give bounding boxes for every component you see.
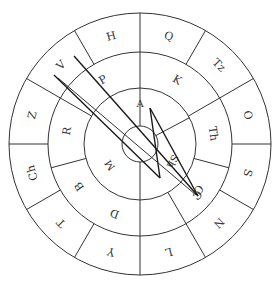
inner-sector-label: M: [102, 158, 117, 173]
outer-divider: [220, 190, 254, 210]
outer-divider: [186, 224, 206, 258]
outer-sector-label: L: [163, 244, 174, 259]
middle-divider: [168, 192, 186, 223]
outer-sector-label: Q: [163, 29, 175, 44]
outer-sector-label: V: [53, 57, 69, 73]
middle-divider: [188, 98, 219, 116]
middle-sector-label: B: [72, 179, 87, 193]
middle-sector-label: Th: [206, 126, 221, 142]
middle-sector-label: K: [170, 72, 184, 88]
middle-sector-label: R: [60, 125, 74, 136]
inner-sector-label: A: [135, 98, 144, 109]
outer-sector-label: H: [105, 29, 118, 44]
middle-sector-label: D: [108, 206, 121, 221]
middle-divider: [51, 158, 86, 167]
outer-sector-label: T: [54, 215, 69, 230]
outer-divider: [186, 31, 206, 65]
outer-divider: [27, 79, 61, 99]
outer-sector-label: Y: [105, 244, 117, 259]
middle-sector-label: P: [97, 72, 110, 87]
outer-divider: [75, 224, 95, 258]
trace-line: [58, 78, 196, 195]
outer-sector-label: Z: [25, 109, 40, 120]
letter-wheel-diagram: QTzOSNLYTChZVHKThCDBRPAShM C: [0, 0, 276, 284]
outer-sector-label: Tz: [210, 56, 229, 75]
outer-divider: [27, 190, 61, 210]
outer-sector-label: O: [240, 109, 255, 121]
outer-sector-label: N: [211, 215, 227, 231]
middle-divider: [194, 158, 229, 167]
outer-sector-label: S: [240, 168, 255, 179]
outer-divider: [220, 79, 254, 99]
outer-sector-label: Ch: [24, 164, 41, 182]
